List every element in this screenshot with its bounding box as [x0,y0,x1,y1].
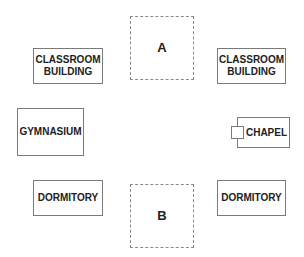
classroom-building-right: CLASSROOM BUILDING [217,48,286,84]
plot-b-label: B [157,210,166,222]
gymnasium: GYMNASIUM [17,108,84,156]
chapel: CHAPEL [237,117,290,148]
chapel-label: CHAPEL [246,127,287,139]
dormitory-right-label: DORMITORY [221,192,282,204]
plot-b: B [130,184,194,248]
plot-a-label: A [157,42,166,54]
dormitory-left: DORMITORY [33,180,103,216]
dormitory-left-label: DORMITORY [38,192,99,204]
classroom-left-label: CLASSROOM BUILDING [36,54,101,78]
classroom-building-left: CLASSROOM BUILDING [33,48,103,84]
chapel-annex [231,126,244,139]
gymnasium-label: GYMNASIUM [19,126,81,138]
dormitory-right: DORMITORY [217,180,286,216]
plot-a: A [130,16,194,80]
classroom-right-label: CLASSROOM BUILDING [219,54,284,78]
